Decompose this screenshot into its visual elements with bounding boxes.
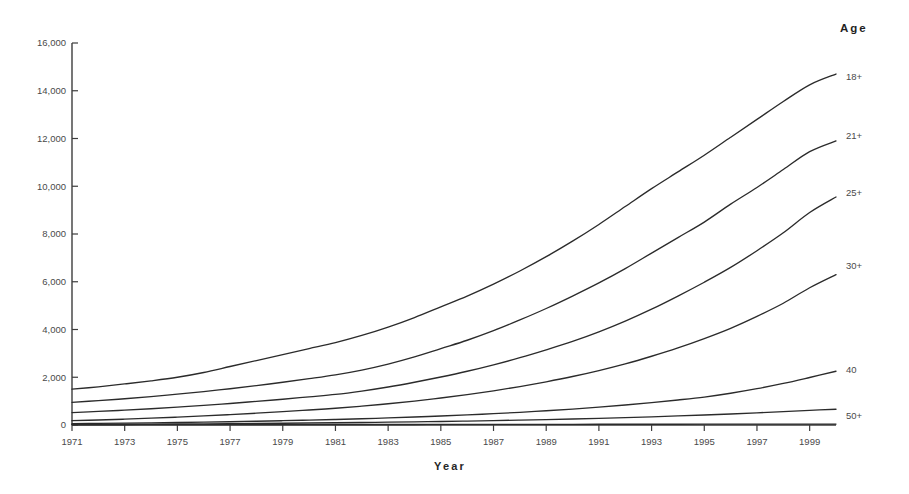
line-chart: 02,0004,0006,0008,00010,00012,00014,0001…	[0, 0, 909, 494]
x-tick-label: 1983	[378, 436, 399, 447]
legend-label-18plus: 18+	[846, 71, 863, 82]
series-line-40	[72, 371, 836, 423]
series-legend: 18+21+25+30+4050+	[846, 71, 863, 421]
legend-label-30plus: 30+	[846, 260, 863, 271]
x-tick-label: 1989	[536, 436, 557, 447]
series-line-baseline	[72, 424, 836, 425]
x-tick-label: 1991	[588, 436, 609, 447]
series-line-30plus	[72, 275, 836, 421]
x-tick-label: 1973	[114, 436, 135, 447]
y-tick-label: 6,000	[42, 276, 66, 287]
x-tick-label: 1985	[430, 436, 451, 447]
x-tick-label: 1979	[272, 436, 293, 447]
x-tick-label: 1987	[483, 436, 504, 447]
legend-title: Age	[840, 22, 868, 34]
x-tick-label: 1975	[167, 436, 188, 447]
y-tick-label: 4,000	[42, 324, 66, 335]
series-line-21plus	[72, 141, 836, 402]
x-tick-label: 1981	[325, 436, 346, 447]
x-axis: 1971197319751977197919811983198519871989…	[61, 425, 836, 447]
legend-label-40: 40	[846, 364, 857, 375]
series-line-25plus	[72, 197, 836, 413]
y-tick-label: 12,000	[37, 133, 66, 144]
y-axis: 02,0004,0006,0008,00010,00012,00014,0001…	[37, 37, 78, 430]
x-tick-label: 1977	[219, 436, 240, 447]
legend-label-50plus: 50+	[846, 410, 863, 421]
series-line-18plus	[72, 74, 836, 389]
x-tick-label: 1993	[641, 436, 662, 447]
series-lines	[72, 74, 836, 425]
y-axis-tick-labels: 02,0004,0006,0008,00010,00012,00014,0001…	[37, 37, 66, 430]
y-tick-label: 2,000	[42, 372, 66, 383]
x-tick-label: 1997	[746, 436, 767, 447]
x-axis-ticks	[72, 425, 810, 431]
y-tick-label: 8,000	[42, 228, 66, 239]
y-tick-label: 14,000	[37, 85, 66, 96]
y-tick-label: 0	[61, 419, 66, 430]
y-tick-label: 16,000	[37, 37, 66, 48]
x-tick-label: 1971	[61, 436, 82, 447]
x-tick-label: 1999	[799, 436, 820, 447]
x-tick-label: 1995	[694, 436, 715, 447]
legend-label-21plus: 21+	[846, 130, 863, 141]
x-axis-title: Year	[434, 460, 466, 472]
y-tick-label: 10,000	[37, 181, 66, 192]
chart-page: 02,0004,0006,0008,00010,00012,00014,0001…	[0, 0, 909, 494]
legend-label-25plus: 25+	[846, 187, 863, 198]
y-axis-ticks	[72, 43, 78, 425]
x-axis-tick-labels: 1971197319751977197919811983198519871989…	[61, 436, 820, 447]
